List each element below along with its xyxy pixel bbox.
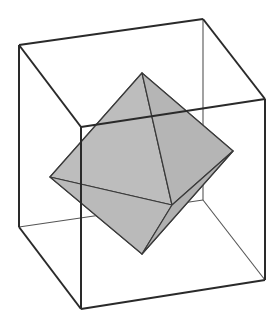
cube-edge-bottom-left-front (19, 227, 81, 309)
cube-edge-top-front-left (19, 45, 81, 127)
cube-edge-top-back-right (203, 19, 265, 99)
octahedron (50, 73, 233, 254)
cube-octahedron-diagram (0, 0, 278, 326)
cube-edge-bottom-front-right (81, 280, 265, 309)
cube-edge-top-left-back (19, 19, 203, 45)
cube-edge-back-bottom-right (203, 200, 265, 280)
